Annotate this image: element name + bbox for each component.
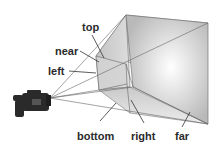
leader-bottom <box>100 103 116 121</box>
frustum <box>96 15 208 124</box>
video-camera-icon <box>13 90 51 117</box>
label-near: near <box>55 45 79 57</box>
sight-line <box>50 90 99 98</box>
label-far: far <box>175 130 190 142</box>
label-right: right <box>131 130 156 142</box>
frustum-diagram: top near left bottom right far <box>0 0 218 149</box>
label-left: left <box>48 65 65 77</box>
label-bottom: bottom <box>77 130 114 142</box>
label-top: top <box>82 21 99 33</box>
